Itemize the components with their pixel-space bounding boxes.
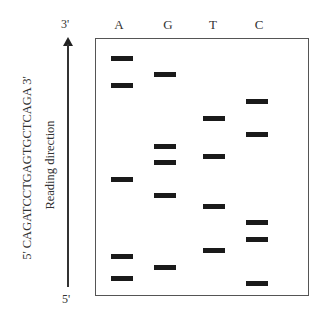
lane-label-c: C: [249, 17, 269, 33]
band-g: [154, 144, 176, 149]
lane-label-a: A: [109, 17, 129, 33]
band-a: [111, 254, 133, 259]
lane-label-g: G: [158, 17, 178, 33]
band-g: [154, 265, 176, 270]
reading-direction-arrow: [67, 44, 69, 287]
band-a: [111, 276, 133, 281]
arrow-bottom-label: 5': [62, 292, 70, 307]
band-g: [154, 72, 176, 77]
arrow-top-label: 3': [61, 17, 69, 32]
band-t: [203, 204, 225, 209]
reading-direction-label: Reading direction: [42, 117, 58, 213]
band-g: [154, 193, 176, 198]
band-c: [246, 99, 268, 104]
band-t: [203, 116, 225, 121]
band-c: [246, 132, 268, 137]
band-c: [246, 237, 268, 242]
lane-label-t: T: [203, 17, 223, 33]
band-g: [154, 160, 176, 165]
band-a: [111, 83, 133, 88]
band-c: [246, 281, 268, 286]
band-c: [246, 220, 268, 225]
band-t: [203, 248, 225, 253]
band-t: [203, 154, 225, 159]
band-a: [111, 177, 133, 182]
band-a: [111, 56, 133, 61]
sequence-label: 5' CAGATCCTGAGTGCTCAGA 3': [19, 70, 35, 266]
